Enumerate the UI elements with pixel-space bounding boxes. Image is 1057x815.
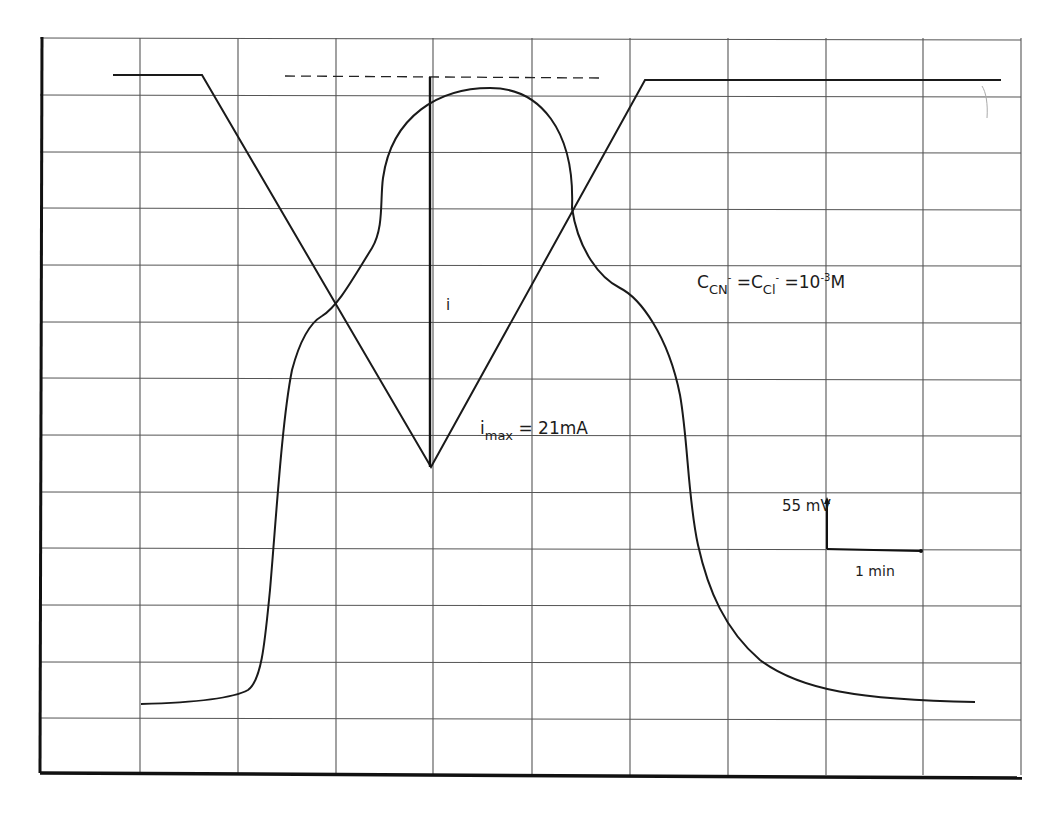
conc-c1: C (697, 272, 709, 292)
conc-c2: C (751, 272, 763, 292)
conc-c1-sub: CN (709, 282, 728, 297)
conc-c2-sub: Cl (763, 282, 776, 297)
conc-c1-sup: - (728, 272, 732, 283)
conc-unit: M (830, 272, 845, 292)
axes (40, 37, 1022, 778)
conc-c2-sup: - (776, 272, 780, 283)
potential-ramp-series (113, 75, 1001, 467)
concentration-annotation: CCN- =CCl- =10-3M (697, 272, 845, 292)
conc-eq2: =10 (779, 272, 820, 292)
dashed-reference-line (285, 76, 600, 78)
conc-eq1: = (731, 272, 751, 292)
imax-value: = 21mA (513, 418, 588, 438)
current-response-series (141, 88, 975, 704)
scale-time-label: 1 min (855, 563, 895, 579)
grid-lines (40, 38, 1021, 775)
imax-sub: max (485, 428, 513, 443)
imax-annotation: imax = 21mA (480, 418, 588, 438)
scale-voltage-label: 55 mV (782, 497, 831, 515)
chart-plot (0, 0, 1057, 815)
i-marker-label: i (446, 296, 450, 314)
scale-bars (824, 497, 923, 553)
stray-mark (982, 86, 987, 118)
conc-exponent: -3 (820, 272, 830, 283)
